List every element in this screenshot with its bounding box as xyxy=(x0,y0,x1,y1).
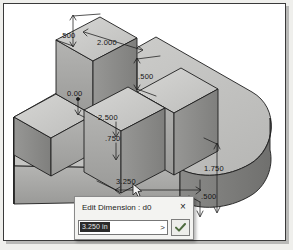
edit-dimension-dialog[interactable]: Edit Dimension : d0 × 3.250 in > xyxy=(74,196,194,240)
dimension-label[interactable]: .500 xyxy=(138,72,153,81)
dimension-label[interactable]: 2.500 xyxy=(98,113,118,122)
dimension-label[interactable]: .500 xyxy=(60,31,75,40)
dimension-value-input[interactable]: 3.250 in > xyxy=(78,220,168,235)
dialog-title-bar: Edit Dimension : d0 × xyxy=(75,197,193,217)
chevron-right-icon[interactable]: > xyxy=(160,222,165,233)
dimension-label[interactable]: .750 xyxy=(105,134,120,143)
close-icon[interactable]: × xyxy=(177,201,189,213)
check-icon xyxy=(175,223,186,232)
dialog-title: Edit Dimension : d0 xyxy=(75,203,151,212)
dimension-label[interactable]: .500 xyxy=(201,192,216,201)
accept-button[interactable] xyxy=(171,219,190,236)
dimension-label[interactable]: 1.750 xyxy=(204,164,224,173)
dimension-value-text[interactable]: 3.250 in xyxy=(80,222,110,232)
dimension-label[interactable]: 0.00 xyxy=(67,89,82,98)
dialog-body: 3.250 in > xyxy=(75,217,193,237)
dimension-label[interactable]: 2.000 xyxy=(97,38,117,47)
screenshot-root: .500 2.000 .500 0.00 2.500 .750 1.750 .5… xyxy=(0,0,293,250)
